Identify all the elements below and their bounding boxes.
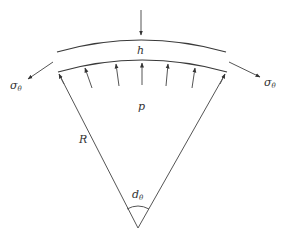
left-radius-arrow-icon <box>59 74 64 84</box>
pressure-arrows <box>85 63 195 88</box>
pressure-label: p <box>138 100 145 113</box>
angle-label-main: d <box>132 188 139 201</box>
radius-label: R <box>78 133 87 146</box>
right-stress-sub: θ <box>272 82 277 90</box>
right-radius-line <box>138 76 224 228</box>
pressure-arrow-icon <box>85 68 92 88</box>
pressure-arrow-icon <box>116 64 119 86</box>
shell-element-diagram: h p R dθ σθ σθ <box>0 0 285 243</box>
right-radius-arrow-icon <box>220 74 225 84</box>
left-hoop-stress-arrow-icon <box>28 62 53 79</box>
left-stress-sub: θ <box>18 85 23 93</box>
angle-arc <box>127 206 149 209</box>
angle-label: dθ <box>132 188 144 202</box>
right-hoop-stress-arrow-icon <box>229 62 260 77</box>
angle-label-sub: θ <box>139 194 144 202</box>
left-stress-label: σθ <box>10 79 23 93</box>
right-stress-label: σθ <box>264 76 277 90</box>
thickness-label: h <box>137 44 144 57</box>
pressure-arrow-icon <box>192 68 195 88</box>
pressure-arrow-icon <box>166 64 168 86</box>
left-radius-line <box>60 76 138 228</box>
